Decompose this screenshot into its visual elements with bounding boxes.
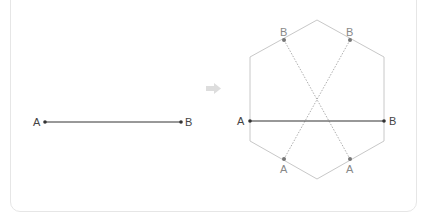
point-top-left xyxy=(282,38,286,42)
label-b: B xyxy=(389,115,396,127)
diagram-canvas: A B A B B B A A xyxy=(0,0,428,214)
point-top-right xyxy=(348,38,352,42)
label-bottom-left: A xyxy=(280,163,288,175)
point-bottom-right xyxy=(348,157,352,161)
label-top-left: B xyxy=(280,26,287,38)
point-bottom-left xyxy=(282,157,286,161)
label-top-right: B xyxy=(346,26,353,38)
point-b xyxy=(179,120,183,124)
point-a xyxy=(248,119,252,123)
right-arrow-icon xyxy=(206,83,221,94)
hexagon xyxy=(250,20,384,179)
point-b xyxy=(382,119,386,123)
right-hexagon-figure: A B B B A A xyxy=(237,20,396,179)
dotted-segment-1 xyxy=(284,40,350,159)
label-bottom-right: A xyxy=(346,163,354,175)
label-a: A xyxy=(33,116,41,128)
point-a xyxy=(43,120,47,124)
left-segment-figure: A B xyxy=(33,116,192,128)
label-a: A xyxy=(237,115,245,127)
label-b: B xyxy=(185,116,192,128)
dotted-segment-2 xyxy=(284,40,350,159)
